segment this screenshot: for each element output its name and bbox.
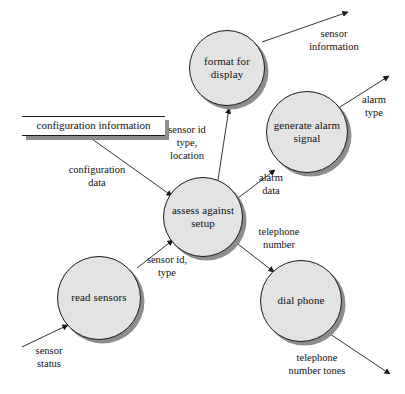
process-assess-against-setup[interactable]: assess against setup [163,177,243,257]
data-store-configuration-information[interactable]: configuration information [22,116,165,136]
flow-label-sensor-status: sensor status [22,345,76,371]
flow-label-telephone-number: telephone number [243,226,315,252]
process-format-for-display[interactable]: format for display [189,30,265,106]
process-label: generate alarm signal [267,119,347,146]
flow-label-alarm-data: alarm data [246,172,296,198]
flow-label-sensor-information: sensor information [288,28,380,54]
process-read-sensors[interactable]: read sensors [57,256,141,340]
flow-label-telephone-number-tones: telephone number tones [268,352,366,378]
process-label: format for display [190,55,264,82]
process-label: read sensors [67,291,130,304]
flow-label-sensor-id-type: sensor id, type [136,254,198,280]
data-flow-diagram: format for display generate alarm signal… [0,0,405,394]
flow-arrow-sensor-id-type-location [218,108,229,180]
flow-label-sensor-id-type-location: sensor id type, location [156,124,218,162]
process-dial-phone[interactable]: dial phone [260,260,342,342]
process-generate-alarm-signal[interactable]: generate alarm signal [266,91,348,173]
process-label: dial phone [273,294,328,307]
process-label: assess against setup [164,204,242,231]
flow-label-alarm-type: alarm type [347,94,401,120]
flow-label-configuration-data: configuration data [54,164,140,190]
data-store-label: configuration information [22,119,165,131]
flow-arrow-sensor-status [22,325,68,347]
